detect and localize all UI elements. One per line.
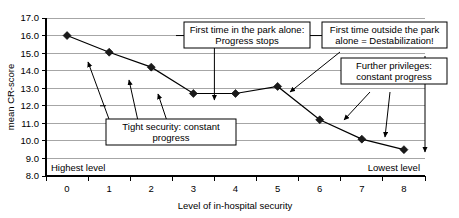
x-tick-label: 1 [106, 183, 111, 194]
line-chart: 17.0 16.0 15.0 14.0 13.0 12.0 11.0 10.0 … [0, 0, 459, 218]
y-tick-label: 15.0 [21, 48, 40, 59]
x-tick-label: 3 [191, 183, 196, 194]
data-point-marker [105, 48, 113, 56]
highest-level-label: Highest level [51, 162, 105, 173]
callout-first-time-outside-park[interactable]: First time outside the park alone = Dest… [322, 22, 447, 48]
leader-outside-park [290, 52, 340, 92]
y-tick-label: 13.0 [21, 83, 40, 94]
callout-tight-security[interactable]: Tight security: constant progress [106, 119, 236, 145]
y-tick-label: 17.0 [21, 12, 40, 23]
x-tick-label: 7 [359, 183, 364, 194]
callout-further-privileges-line2: constant progress [356, 71, 432, 82]
data-point-marker [232, 89, 240, 97]
callout-first-time-park-alone[interactable]: First time in the park alone: Progress s… [184, 22, 310, 48]
x-tick-label: 4 [233, 183, 238, 194]
data-point-marker [63, 32, 71, 40]
x-tick-label: 5 [275, 183, 280, 194]
data-point-marker [189, 89, 197, 97]
y-tick-labels: 17.0 16.0 15.0 14.0 13.0 12.0 11.0 10.0 … [21, 12, 40, 181]
x-axis-title: Level of in-hospital security [178, 200, 293, 211]
y-tick-label: 11.0 [21, 118, 39, 129]
x-tick-marks [46, 176, 425, 181]
callout-tight-security-line2: progress [153, 132, 190, 143]
callout-park-alone-line1: First time in the park alone: [190, 24, 305, 35]
callout-outside-park-line1: First time outside the park [330, 24, 440, 35]
x-tick-label: 6 [317, 183, 322, 194]
callout-outside-park-line2: alone = Destabilization! [335, 35, 434, 46]
leader-further-privileges-2 [385, 92, 390, 137]
x-tick-labels: 0 1 2 3 4 5 6 7 8 [64, 183, 406, 194]
callout-further-privileges-line1: Further privileges: [356, 60, 432, 71]
y-tick-label: 9.0 [26, 153, 39, 164]
callout-park-alone-line2: Progress stops [215, 35, 279, 46]
x-tick-label: 8 [401, 183, 406, 194]
y-tick-label: 12.0 [21, 100, 40, 111]
y-tick-label: 14.0 [21, 65, 40, 76]
chart-figure: 17.0 16.0 15.0 14.0 13.0 12.0 11.0 10.0 … [0, 0, 459, 218]
lowest-level-label: Lowest level [368, 162, 420, 173]
callout-further-privileges[interactable]: Further privileges: constant progress [341, 58, 447, 84]
callout-tight-security-line1: Tight security: constant [122, 121, 220, 132]
data-point-marker [400, 146, 408, 154]
y-tick-label: 10.0 [21, 135, 40, 146]
x-tick-label: 2 [149, 183, 154, 194]
y-tick-label: 16.0 [21, 30, 40, 41]
x-tick-label: 0 [64, 183, 69, 194]
y-axis-title: mean CR-score [5, 64, 16, 131]
data-point-marker [358, 135, 366, 143]
y-tick-label: 8.0 [26, 170, 39, 181]
data-point-marker [147, 63, 155, 71]
